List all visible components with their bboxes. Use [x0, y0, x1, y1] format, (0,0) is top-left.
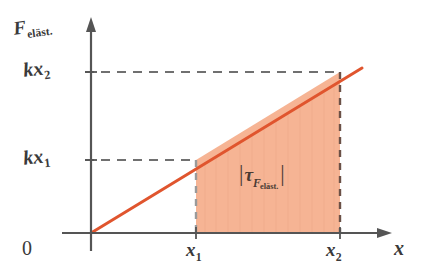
y-tick-label-kx2-main: kx: [22, 57, 45, 81]
area-label-tau: τ: [244, 164, 253, 185]
y-axis-title: Feläst.: [12, 14, 53, 38]
y-axis-title-main: F: [12, 16, 27, 39]
y-axis-arrowhead: [86, 17, 96, 32]
area-label-close-bar: |: [279, 161, 285, 186]
area-label-subscript-elast: eläst.: [260, 182, 278, 191]
x-axis-title: x: [394, 238, 404, 258]
y-tick-label-kx1-main: kx: [22, 145, 45, 169]
y-tick-label-kx2: kx2: [22, 57, 50, 80]
origin-label: 0: [22, 238, 32, 258]
x-axis-arrowhead: [377, 228, 392, 238]
x-tick-label-x2-main: x: [326, 239, 336, 260]
figure-container: Feläst. kx2 kx1 0 x1 x2 x |τFeläst.|: [0, 0, 429, 275]
plot-canvas: [0, 0, 429, 275]
x-tick-label-x1-main: x: [186, 239, 196, 260]
x-tick-label-x2: x2: [326, 240, 341, 259]
x-tick-label-x1-subscript: 1: [196, 251, 202, 264]
x-tick-label-x1: x1: [186, 240, 201, 259]
y-tick-label-kx1: kx1: [22, 145, 50, 168]
x-tick-label-x2-subscript: 2: [336, 251, 342, 264]
shaded-area-label: |τFeläst.|: [238, 163, 286, 185]
